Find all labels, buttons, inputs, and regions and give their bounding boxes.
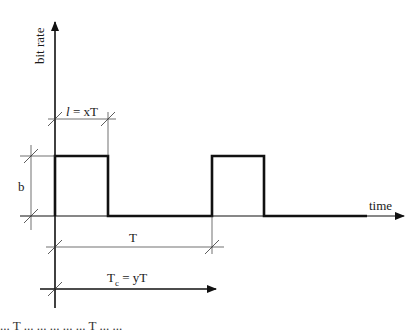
figure-caption-cutoff: ... T ... ... ... ... ... T ... ... <box>0 318 416 332</box>
y-axis-label: bit rate <box>33 28 46 64</box>
pulse-width-rest: = xT <box>70 104 98 119</box>
pulse-train <box>55 156 367 216</box>
tc-main: T <box>107 270 115 285</box>
pulse-width-label: l = xT <box>66 105 98 118</box>
amplitude-label: b <box>18 180 25 193</box>
x-axis-label: time <box>369 199 392 212</box>
tc-rest: = yT <box>119 270 147 285</box>
period-label: T <box>129 231 137 244</box>
amplitude-dimension <box>20 145 55 230</box>
tc-label: Tc = yT <box>107 271 147 288</box>
